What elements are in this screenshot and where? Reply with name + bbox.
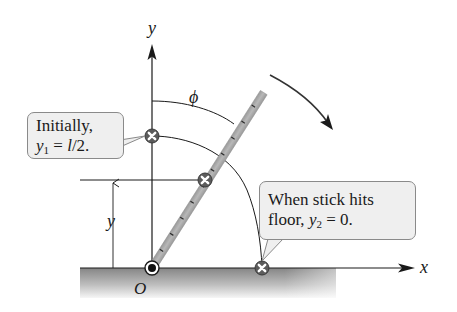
origin-label: O <box>134 279 146 298</box>
callout-initial: Initially, y1 = l/2. <box>27 112 124 159</box>
floor <box>80 268 336 298</box>
callout-final-pointer <box>262 239 283 261</box>
callout-final-line2: floor, y2 = 0. <box>268 210 407 230</box>
falling-stick-diagram: y x O ϕ y Initially, y1 = l/2. When stic… <box>0 0 457 312</box>
callout-initial-var: y <box>36 136 44 155</box>
callout-final-prefix: floor, <box>268 210 309 229</box>
marker-current-cm-icon <box>198 173 212 187</box>
marker-final-cm-icon <box>255 261 269 275</box>
rotation-arrow <box>270 75 328 123</box>
pivot-icon <box>145 261 159 275</box>
height-y-label: y <box>105 211 115 231</box>
callout-final: When stick hits floor, y2 = 0. <box>259 181 416 240</box>
marker-initial-cm-icon <box>145 129 159 143</box>
callout-initial-eq: = <box>49 136 67 155</box>
callout-final-line1: When stick hits <box>268 190 407 210</box>
x-axis-label: x <box>419 257 428 277</box>
callout-initial-line2: y1 = l/2. <box>36 136 115 156</box>
rotation-arrow-head-icon <box>320 114 333 130</box>
callout-initial-line1: Initially, <box>36 116 115 136</box>
y-axis-label: y <box>146 18 156 38</box>
callout-final-eq: = 0. <box>322 210 353 229</box>
angle-phi-label: ϕ <box>189 87 198 107</box>
callout-initial-value-rest: /2. <box>72 136 89 155</box>
